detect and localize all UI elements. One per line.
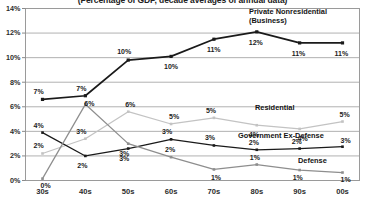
data-point-label: 5% [340, 111, 350, 118]
data-point-label: 0% [41, 182, 51, 189]
data-point-label: 3% [162, 128, 172, 135]
data-point-label: 1% [211, 174, 221, 181]
x-axis-tick-label: 40s [68, 188, 102, 196]
data-point-label: 2% [77, 162, 87, 169]
data-point-label: 3% [119, 150, 129, 157]
y-axis-tick-label: 0% [0, 177, 21, 184]
y-axis-tick-label: 12% [0, 29, 21, 36]
series-label-line: (Business) [249, 17, 327, 26]
data-point-marker [341, 171, 344, 174]
chart-container: (Percentage of GDP, decade averages of a… [0, 0, 365, 204]
data-point-marker [41, 131, 44, 134]
data-point-label: 2% [34, 142, 44, 149]
x-axis-tick-label: 70s [197, 188, 231, 196]
data-point-marker [255, 148, 258, 151]
data-point-label: 6% [84, 100, 94, 107]
data-point-marker [41, 98, 44, 101]
plot-border [26, 9, 360, 181]
x-axis-tick-label: 80s [240, 188, 274, 196]
data-point-marker [213, 144, 216, 147]
data-point-label: 3% [341, 137, 351, 144]
data-point-marker [298, 169, 301, 172]
data-point-label: 6% [125, 101, 135, 108]
data-point-label: 5% [206, 107, 216, 114]
data-point-label: 3% [205, 134, 215, 141]
data-point-label: 12% [249, 39, 263, 46]
data-point-marker [341, 145, 344, 148]
data-point-label: 10% [117, 48, 131, 55]
data-point-label: 10% [164, 63, 178, 70]
data-point-marker [212, 38, 215, 41]
series-line [43, 32, 343, 100]
data-point-label: 3% [76, 128, 86, 135]
data-point-marker [41, 152, 44, 155]
data-point-label: 1% [250, 154, 260, 161]
data-point-label: 11% [292, 50, 306, 57]
series-label: Residential [255, 104, 294, 113]
data-point-marker [341, 41, 344, 44]
data-point-label: 5% [169, 113, 179, 120]
series-label: Defense [298, 157, 327, 166]
data-point-marker [170, 138, 173, 141]
data-point-marker [84, 94, 87, 97]
data-point-marker [127, 142, 130, 145]
data-point-label: 2% [165, 146, 175, 153]
data-point-marker [84, 155, 87, 158]
data-point-label: 11% [335, 50, 349, 57]
data-point-marker [127, 110, 130, 113]
y-axis-tick-label: 4% [0, 128, 21, 135]
x-axis-tick-label: 00s [326, 188, 360, 196]
x-axis-tick-label: 50s [111, 188, 145, 196]
x-axis-tick-label: 90s [283, 188, 317, 196]
x-axis-tick-label: 60s [154, 188, 188, 196]
chart-plot-area [0, 0, 365, 204]
data-point-label: 1% [341, 176, 351, 183]
y-axis-tick-label: 14% [0, 5, 21, 12]
series-label-line: Government Ex-Defense [238, 132, 324, 141]
data-point-marker [170, 156, 173, 159]
series-label: Government Ex-Defense [238, 132, 324, 141]
data-point-marker [255, 124, 258, 127]
y-axis-ticks [22, 9, 26, 181]
data-point-marker [298, 41, 301, 44]
y-axis-tick-label: 10% [0, 54, 21, 61]
series-label-line: Residential [255, 104, 294, 113]
data-point-label: 4% [34, 122, 44, 129]
data-point-marker [213, 168, 216, 171]
data-point-label: 1% [293, 174, 303, 181]
data-point-marker [213, 117, 216, 120]
y-axis-tick-label: 8% [0, 79, 21, 86]
data-point-label: 7% [76, 85, 86, 92]
data-point-marker [255, 163, 258, 166]
series-label-line: Defense [298, 157, 327, 166]
y-axis-tick-label: 2% [0, 152, 21, 159]
series-label: Private Nonresidential(Business) [249, 8, 327, 25]
data-point-marker [298, 147, 301, 150]
data-point-marker [170, 123, 173, 126]
data-point-marker [84, 137, 87, 140]
data-point-marker [41, 177, 44, 180]
data-point-label: 7% [34, 88, 44, 95]
data-point-marker [255, 30, 258, 33]
data-point-label: 11% [207, 46, 221, 53]
data-point-marker [169, 55, 172, 58]
y-axis-tick-label: 6% [0, 103, 21, 110]
data-point-marker [298, 128, 301, 131]
data-point-marker [127, 59, 130, 62]
data-point-marker [341, 120, 344, 123]
